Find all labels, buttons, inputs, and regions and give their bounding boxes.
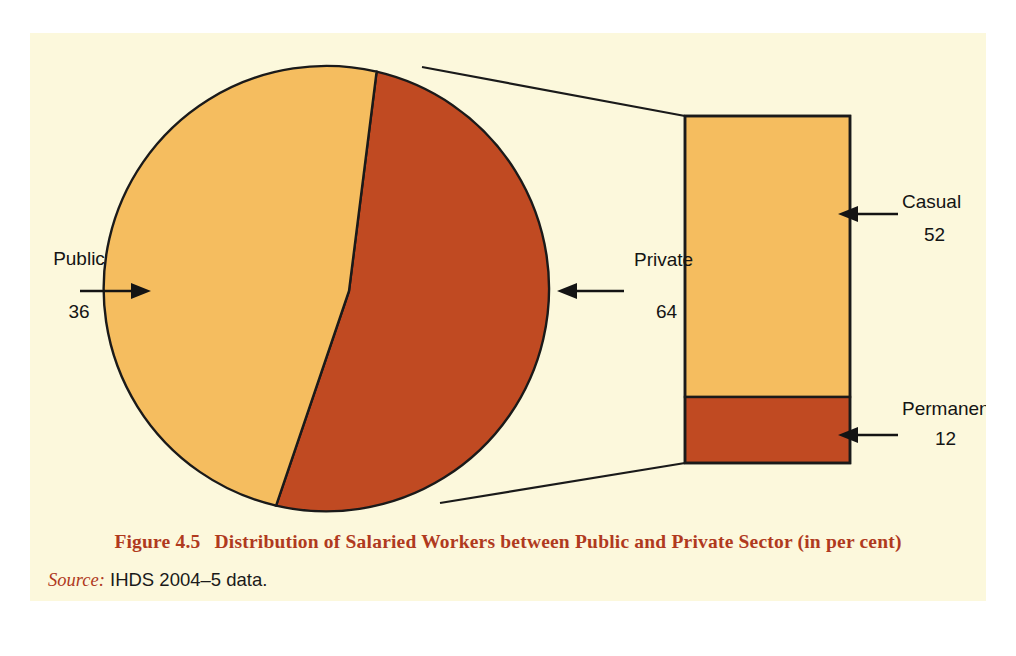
caption-block: Figure 4.5Distribution of Salaried Worke… [30,531,986,591]
casual-value: 52 [924,224,945,245]
casual-label: Casual [902,191,961,212]
figure-root: Public 36 Private 64 Casual 52 [0,0,1016,656]
pie-chart [104,66,549,511]
bar-segment-casual[interactable] [685,116,850,397]
private-arrow-head-icon [557,283,577,299]
figure-number: Figure 4.5 [114,531,200,552]
breakout-bar [685,116,850,463]
bar-segment-permanent[interactable] [685,397,850,463]
source-label: Source: [48,570,105,590]
public-value: 36 [68,301,89,322]
callout-permanent: Permanent 12 [838,398,986,449]
figure-panel: Public 36 Private 64 Casual 52 [30,33,986,601]
private-label: Private [634,249,693,270]
callout-private: Private 64 [557,249,693,322]
source-text: IHDS 2004–5 data. [110,569,267,590]
source-line: Source: IHDS 2004–5 data. [30,569,986,591]
public-label: Public [53,248,105,269]
connector-bottom-line [440,463,685,503]
connector-top-line [422,67,685,116]
chart-svg: Public 36 Private 64 Casual 52 [30,33,986,601]
permanent-value: 12 [935,428,956,449]
permanent-label: Permanent [902,398,986,419]
figure-caption-text: Distribution of Salaried Workers between… [215,531,902,552]
chart-stage: Public 36 Private 64 Casual 52 [30,33,986,601]
figure-caption: Figure 4.5Distribution of Salaried Worke… [30,531,986,553]
private-value: 64 [656,301,678,322]
callout-casual: Casual 52 [838,191,961,245]
